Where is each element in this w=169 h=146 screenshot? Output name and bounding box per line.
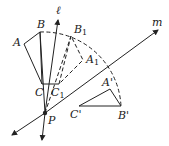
triangle-a-prime: [79, 89, 121, 106]
label-a: A: [12, 36, 21, 49]
label-l: ℓ: [56, 4, 61, 17]
label-p: P: [47, 114, 56, 127]
line-m: [45, 30, 158, 113]
segment-pb1: [45, 36, 71, 113]
segment-pb: [40, 32, 45, 113]
point-p: [43, 111, 47, 115]
line-m-lower: [12, 113, 45, 135]
label-a-prime: A': [101, 76, 113, 89]
geometry-diagram: A B C ℓ m B1 A1 C1 P C' A' B': [0, 0, 169, 146]
triangle-abc: [24, 32, 42, 84]
label-c: C: [35, 86, 44, 99]
label-b: B: [36, 18, 45, 31]
label-c1: C1: [51, 86, 65, 100]
label-c-prime: C': [70, 108, 81, 121]
label-b1: B1: [73, 23, 87, 37]
label-a1: A1: [85, 53, 99, 67]
label-m: m: [152, 16, 162, 29]
line-l-lower: [42, 113, 45, 140]
label-b-prime: B': [117, 109, 129, 122]
line-l: [45, 20, 58, 113]
